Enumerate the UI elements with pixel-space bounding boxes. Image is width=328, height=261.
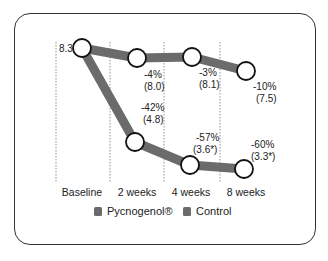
marker-pyc-8w [235,160,253,178]
x-tick-baseline: Baseline [62,186,102,198]
marker-pyc-2w [126,133,144,151]
label-pyc-4w-pct: -57% [196,132,219,143]
label-control-2w-val: (8.0) [144,81,165,92]
label-baseline: 8.3 [59,43,73,54]
x-tick-8-weeks: 8 weeks [227,186,266,198]
legend: Pycnogenol® Control [94,205,231,217]
marker-control-4w [183,48,201,66]
legend-label-control: Control [196,205,231,217]
legend-swatch-control [183,207,191,216]
x-tick-2-weeks: 2 weeks [118,186,157,198]
label-pyc-8w-pct: -60% [251,139,274,150]
marker-baseline [73,39,91,57]
label-control-8w-pct: -10% [253,81,276,92]
legend-swatch-pycnogenol [94,207,102,216]
label-pyc-2w-val: (4.8) [143,114,164,125]
label-control-4w-val: (8.1) [199,79,220,90]
label-control-8w-val: (7.5) [256,93,277,104]
line-chart: 8.3 -4% (8.0) -3% (8.1) -10% (7.5) -42% … [0,0,328,261]
legend-label-pycnogenol: Pycnogenol® [107,205,173,217]
x-tick-4-weeks: 4 weeks [172,186,211,198]
marker-pyc-4w [181,156,199,174]
label-pyc-4w-val: (3.6*) [193,144,217,155]
marker-control-8w [237,62,255,80]
label-control-4w-pct: -3% [199,67,217,78]
label-control-2w-pct: -4% [144,69,162,80]
label-pyc-2w-pct: -42% [141,102,164,113]
marker-control-2w [128,49,146,67]
label-pyc-8w-val: (3.3*) [251,151,275,162]
